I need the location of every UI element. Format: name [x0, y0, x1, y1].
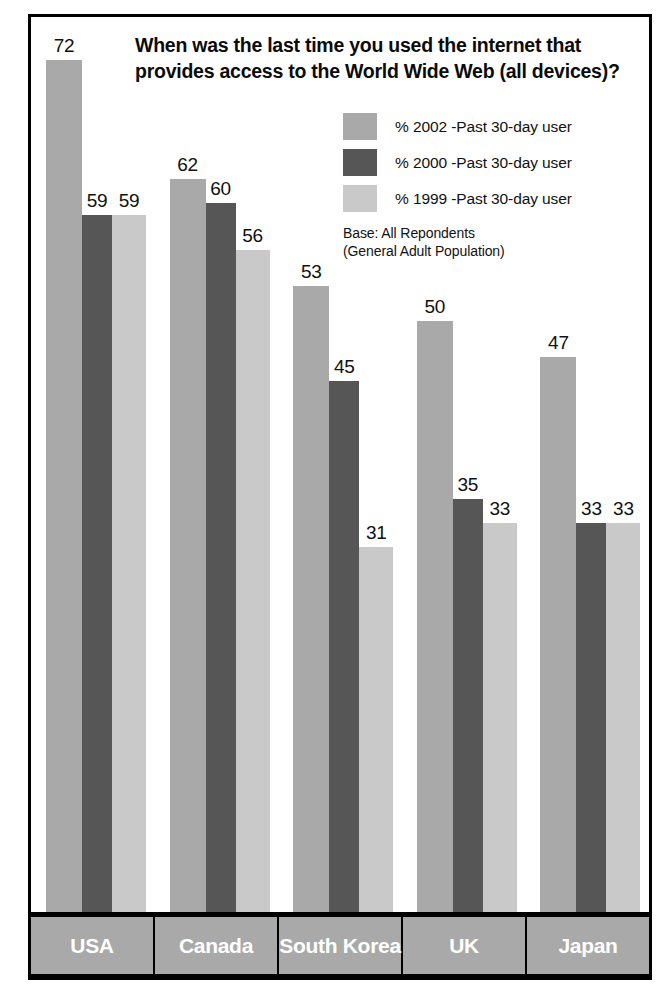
category-label-text: Japan	[558, 934, 617, 958]
category-label-usa: USA	[31, 915, 155, 977]
bar-value-label: 31	[366, 522, 387, 544]
bar-usa-1999: 59	[112, 215, 146, 914]
category-label-japan: Japan	[527, 915, 649, 977]
bar-value-label: 72	[54, 35, 75, 57]
bar-canada-2002: 62	[170, 179, 206, 914]
category-label-text: UK	[449, 934, 479, 958]
bar-group-canada: 626056	[155, 17, 279, 914]
bar-canada-1999: 56	[236, 250, 270, 914]
bar-value-label: 50	[425, 296, 446, 318]
bar-south-korea-2002: 53	[293, 286, 329, 914]
bar-value-label: 59	[119, 190, 140, 212]
chart-frame: When was the last time you used the inte…	[28, 14, 652, 980]
bar-value-label: 62	[177, 154, 198, 176]
bar-uk-2000: 35	[453, 499, 483, 914]
bar-japan-2000: 33	[576, 523, 606, 914]
bar-south-korea-1999: 31	[359, 547, 393, 915]
bar-usa-2002: 72	[46, 60, 82, 914]
bar-value-label: 33	[613, 498, 634, 520]
category-label-south-korea: South Korea	[279, 915, 403, 977]
plot-area: When was the last time you used the inte…	[31, 17, 649, 977]
bar-usa-2000: 59	[82, 215, 112, 914]
bar-south-korea-2000: 45	[329, 381, 359, 914]
bar-canada-2000: 60	[206, 203, 236, 914]
bar-value-label: 45	[334, 356, 355, 378]
category-label-canada: Canada	[155, 915, 279, 977]
bar-group-usa: 725959	[31, 17, 155, 914]
bar-uk-2002: 50	[417, 321, 453, 914]
category-label-text: USA	[70, 934, 113, 958]
bar-value-label: 60	[210, 178, 231, 200]
bar-value-label: 33	[581, 498, 602, 520]
bar-uk-1999: 33	[483, 523, 517, 914]
bar-value-label: 33	[490, 498, 511, 520]
bar-japan-2002: 47	[540, 357, 576, 914]
category-label-text: Canada	[179, 934, 253, 958]
bar-japan-1999: 33	[606, 523, 640, 914]
bar-group-uk: 503533	[402, 17, 526, 914]
category-label-uk: UK	[403, 915, 527, 977]
category-label-text: South Korea	[279, 934, 401, 958]
bar-value-label: 35	[458, 474, 479, 496]
bar-value-label: 56	[242, 225, 263, 247]
bar-value-label: 47	[548, 332, 569, 354]
category-axis: USACanadaSouth KoreaUKJapan	[31, 915, 649, 977]
bar-value-label: 53	[301, 261, 322, 283]
bar-value-label: 59	[87, 190, 108, 212]
bar-group-south-korea: 534531	[278, 17, 402, 914]
bar-group-japan: 473333	[525, 17, 649, 914]
